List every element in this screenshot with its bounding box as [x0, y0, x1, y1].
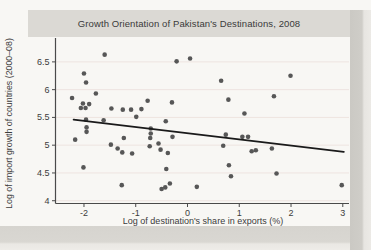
data-point [229, 174, 234, 179]
y-tick-label: 6.5 [37, 57, 50, 67]
data-point [270, 146, 275, 151]
data-point [224, 132, 229, 137]
data-point [246, 135, 251, 140]
data-point [163, 119, 168, 124]
data-point [84, 130, 89, 135]
data-point [101, 118, 106, 123]
x-tick-label: -1 [132, 208, 140, 218]
scanned-figure: Growth Orientation of Pakistan's Destina… [0, 0, 371, 250]
data-point [120, 107, 125, 112]
data-point [226, 97, 231, 102]
data-point [254, 148, 259, 153]
data-point [134, 115, 139, 120]
data-point [119, 183, 124, 188]
data-point [122, 136, 127, 141]
data-point [109, 142, 114, 147]
x-tick-label: 3 [340, 208, 345, 218]
data-point [170, 100, 175, 105]
data-point [82, 71, 87, 76]
data-point [274, 171, 279, 176]
y-tick-label: 4 [44, 196, 49, 206]
data-point [94, 91, 99, 96]
data-point [73, 137, 78, 142]
data-point [147, 144, 152, 149]
data-point [249, 149, 254, 154]
data-point [242, 111, 247, 116]
data-point [163, 185, 168, 190]
data-point [84, 125, 89, 130]
data-point [115, 146, 120, 151]
data-point [240, 135, 245, 140]
data-point [84, 80, 89, 85]
data-point [195, 185, 200, 190]
data-point [164, 167, 169, 172]
data-point [139, 107, 144, 112]
data-point [83, 106, 88, 111]
data-point [145, 98, 150, 103]
data-point [81, 165, 86, 170]
scatter-plot: 44.555.566.5-2-10123 [0, 0, 371, 250]
data-point [166, 151, 171, 156]
data-point [109, 106, 114, 111]
data-point [120, 150, 125, 155]
data-point [81, 101, 86, 106]
y-tick-label: 5 [44, 140, 49, 150]
data-point [219, 78, 224, 83]
x-tick-label: -2 [80, 208, 88, 218]
y-tick-label: 5.5 [37, 112, 50, 122]
data-point [158, 147, 163, 152]
x-tick-label: 1 [237, 208, 242, 218]
x-tick-label: 0 [185, 208, 190, 218]
data-point [129, 107, 134, 112]
data-point [102, 52, 107, 57]
data-point [174, 59, 179, 64]
trend-line [74, 120, 344, 152]
data-point [130, 151, 135, 156]
data-point [148, 131, 153, 136]
data-point [168, 181, 173, 186]
data-point [170, 135, 175, 140]
data-point [288, 73, 293, 78]
data-point [339, 183, 344, 188]
data-point [272, 94, 277, 99]
data-point [156, 141, 161, 146]
y-tick-label: 4.5 [37, 168, 50, 178]
y-tick-label: 6 [44, 85, 49, 95]
data-point [87, 102, 92, 107]
data-point [70, 96, 75, 101]
data-point [221, 143, 226, 148]
data-point [188, 56, 193, 61]
data-point [227, 163, 232, 168]
x-tick-label: 2 [289, 208, 294, 218]
data-point [79, 106, 84, 111]
data-point [148, 136, 153, 141]
